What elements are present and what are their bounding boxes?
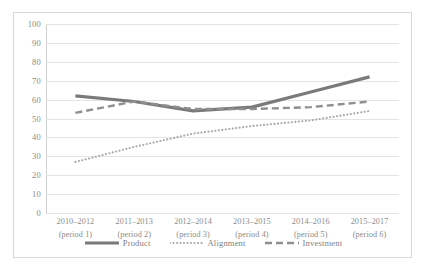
gridline bbox=[46, 213, 399, 214]
y-axis-tick-label: 50 bbox=[32, 114, 41, 124]
legend-item-alignment[interactable]: Alignment bbox=[170, 238, 246, 248]
legend-swatch-alignment bbox=[170, 239, 204, 247]
chart-legend: ProductAlignmentInvestment bbox=[14, 238, 413, 248]
y-axis-tick-label: 40 bbox=[32, 132, 41, 142]
x-label-years: 2014–2016 bbox=[292, 217, 330, 226]
y-axis-tick-label: 70 bbox=[32, 76, 41, 86]
x-label-years: 2010–2012 bbox=[57, 217, 95, 226]
legend-swatch-investment bbox=[265, 239, 299, 247]
y-axis-tick-label: 10 bbox=[32, 189, 41, 199]
x-label-years: 2011–2013 bbox=[116, 217, 153, 226]
legend-label: Alignment bbox=[208, 238, 246, 248]
plot-area: 1009080706050403020100 bbox=[46, 24, 399, 213]
chart-figure: 1009080706050403020100 2010–2012(period … bbox=[13, 12, 412, 258]
y-axis-tick-label: 80 bbox=[32, 57, 41, 67]
y-axis-tick-label: 60 bbox=[32, 95, 41, 105]
y-axis-tick-label: 0 bbox=[37, 208, 41, 218]
y-axis-tick-label: 30 bbox=[32, 151, 41, 161]
x-label-years: 2012–2014 bbox=[174, 217, 212, 226]
legend-item-investment[interactable]: Investment bbox=[265, 238, 343, 248]
x-label-years: 2015–2017 bbox=[351, 217, 389, 226]
series-line-investment bbox=[75, 101, 369, 112]
y-axis-tick-label: 90 bbox=[32, 38, 41, 48]
x-label-years: 2013–2015 bbox=[233, 217, 271, 226]
series-line-product bbox=[75, 77, 369, 111]
legend-swatch-product bbox=[85, 239, 119, 247]
series-line-alignment bbox=[75, 111, 369, 162]
legend-item-product[interactable]: Product bbox=[85, 238, 151, 248]
y-axis-tick-label: 100 bbox=[28, 19, 41, 29]
legend-label: Product bbox=[123, 238, 151, 248]
legend-label: Investment bbox=[303, 238, 343, 248]
series-lines-svg bbox=[46, 24, 399, 213]
y-axis-tick-label: 20 bbox=[32, 170, 41, 180]
